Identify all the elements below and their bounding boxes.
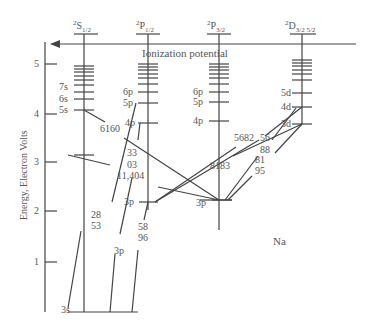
y-tick-4: 4 [34,109,39,119]
level-7s: 7s [59,82,68,92]
y-tick-2: 2 [34,206,39,216]
wavelength-95: 95 [255,166,265,176]
level-p32-3p: 3p [196,198,206,208]
wavelength-11404: 11,404 [117,171,144,181]
wavelength-81: 81 [255,155,265,165]
term-p32: 2P3/2 [207,18,225,35]
level-p12-3p: 3p [124,197,134,207]
y-tick-3: 3 [34,157,39,167]
level-p12-5p: 5p [123,98,133,108]
ionization-label: Ionization potential [142,48,228,58]
wavelength-96: 96 [138,233,148,243]
term-p12: 2P1/2 [136,18,154,35]
level-p32-5p: 5p [193,97,203,107]
level-3s: 3s [61,305,70,315]
wavelength-03: 03 [127,160,137,170]
level-p12-4p: 4p [125,118,135,128]
level-p32-4p: 4p [193,116,203,126]
level-5d: 5d [281,88,291,98]
y-tick-1: 1 [34,257,39,267]
level-3d: 3d [281,119,291,129]
term-s12: 2S1/2 [73,18,91,35]
term-d: 2D3/2 5/2 [285,18,315,35]
wavelength-33: 33 [127,148,137,158]
level-4d: 4d [281,102,291,112]
element-label: Na [273,236,286,246]
level-p12-6p: 6p [123,87,133,97]
wavelength-58: 58 [138,222,148,232]
wavelength-53: 53 [91,221,101,231]
level-6s: 6s [59,94,68,104]
y-axis-title: Energy, Electron Volts [18,130,29,220]
wavelength-3p-label: 3p [114,246,124,256]
wavelength-5682: 5682 [234,133,254,143]
wavelength-56: 56 [260,133,270,143]
wavelength-28: 28 [91,210,101,220]
wavelength-6160: 6160 [100,124,120,134]
wavelength-8183: 8183 [210,161,230,171]
y-tick-5: 5 [34,59,39,69]
level-5s: 5s [59,105,68,115]
